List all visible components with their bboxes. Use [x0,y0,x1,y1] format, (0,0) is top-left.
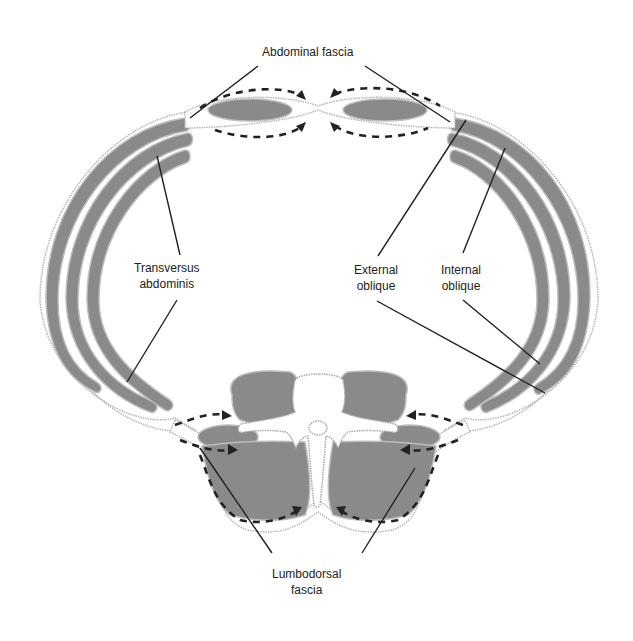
label-external-oblique: External oblique [354,262,398,294]
label-abdominal-fascia: Abdominal fascia [262,44,353,60]
label-lumbodorsal-fascia: Lumbodorsal fascia [272,566,341,598]
label-line: Internal [441,262,481,278]
label-line: oblique [441,278,481,294]
label-line: External [354,262,398,278]
label-transversus-abdominis: Transversus abdominis [134,260,200,292]
label-internal-oblique: Internal oblique [441,262,481,294]
leader-external-oblique-upper [378,120,466,256]
label-line: abdominis [134,276,200,292]
right-rectus-abdominis [343,99,427,121]
arrowhead [296,90,306,100]
arrowhead [222,410,232,420]
left-rectus-abdominis [208,99,292,121]
arrowhead [330,88,340,98]
fascia-tension-arrow-bottom-right [335,126,428,137]
label-line: Lumbodorsal [272,566,341,582]
arrowhead [330,122,340,132]
abdominal-cross-section-diagram [0,0,633,641]
spinal-canal [309,421,327,435]
label-line: fascia [272,582,341,598]
label-line: Transversus [134,260,200,276]
label-line: oblique [354,278,398,294]
leader-transversus-lower [127,300,177,382]
arrowhead [406,410,416,420]
fascia-tension-arrow-bottom-left [215,126,302,137]
